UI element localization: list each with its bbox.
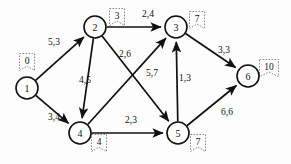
edge-label-4-3: 5,7	[146, 68, 158, 78]
node-tag-value-6: 10	[264, 62, 274, 72]
node-tag-value-5: 7	[196, 137, 201, 147]
node-label-5: 5	[176, 128, 181, 139]
edge-label-2-4: 4,5	[79, 75, 91, 85]
edge-label-1-4: 3,4	[48, 112, 60, 122]
edge-5-to-3	[176, 42, 178, 122]
node-tag-value-4: 4	[97, 137, 102, 147]
node-label-1: 1	[25, 83, 30, 94]
edge-label-5-3: 1,3	[179, 73, 191, 83]
edge-label-4-5: 2,3	[125, 115, 137, 125]
edge-5-to-6	[187, 85, 236, 125]
node-label-4: 4	[78, 128, 83, 139]
node-tag-value-1: 0	[25, 56, 30, 66]
edge-label-2-3: 2,4	[142, 9, 154, 19]
node-tag-value-2: 3	[115, 11, 120, 21]
edge-label-2-5: 2,6	[119, 49, 131, 59]
edge-label-3-6: 3,3	[218, 45, 230, 55]
nodes-layer: 0132734475106	[16, 9, 279, 152]
edge-label-5-6: 6,6	[221, 107, 233, 117]
diagram-canvas: 0132734475106 5,33,42,44,52,65,72,31,33,…	[0, 0, 291, 164]
node-label-3: 3	[174, 22, 179, 33]
node-label-2: 2	[93, 22, 98, 33]
node-label-6: 6	[246, 71, 251, 82]
edge-2-to-5	[102, 36, 169, 121]
edge-label-1-2: 5,3	[48, 37, 60, 47]
node-tag-value-3: 7	[195, 14, 200, 24]
network-graph: 0132734475106 5,33,42,44,52,65,72,31,33,…	[0, 0, 291, 164]
